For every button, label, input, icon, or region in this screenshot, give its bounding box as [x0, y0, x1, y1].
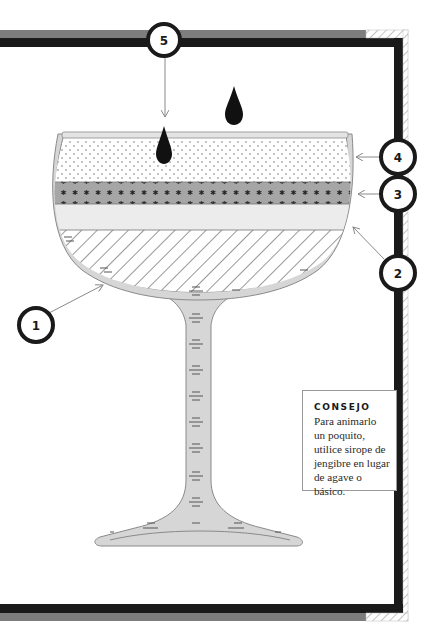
cocktail-diagram: ✱ — [0, 0, 428, 637]
callout-2[interactable]: 2 — [381, 256, 415, 290]
callout-3[interactable]: 3 — [381, 177, 415, 211]
tip-title: CONSEJO — [314, 402, 390, 412]
callout-5[interactable]: 5 — [148, 24, 180, 56]
drop-icon — [225, 86, 243, 125]
callout-1-label: 1 — [32, 319, 40, 333]
callout-1[interactable]: 1 — [19, 308, 53, 342]
arrow-2 — [353, 227, 384, 259]
frame-bottom-black — [0, 604, 403, 613]
glass-stem — [95, 288, 303, 546]
frame-top-hatch — [366, 30, 408, 38]
frame-bottom-gray — [0, 613, 366, 621]
callout-2-label: 2 — [394, 267, 402, 281]
frame-right-black — [394, 38, 403, 613]
callout-3-label: 3 — [394, 188, 402, 202]
callout-4-label: 4 — [394, 151, 402, 165]
glass-rim — [62, 132, 348, 138]
frame-right-hatch — [403, 30, 408, 621]
arrow-1 — [49, 285, 103, 313]
layer-4-dotted — [40, 136, 370, 182]
callout-5-label: 5 — [160, 34, 168, 48]
tip-box: CONSEJO Para animarlo un poquito, utilic… — [302, 390, 397, 491]
frame-bottom-hatch — [366, 613, 408, 621]
frame-top-black — [0, 38, 403, 47]
tip-text: Para animarlo un poquito, utilice sirope… — [314, 414, 390, 498]
layer-2-light — [40, 204, 370, 230]
callout-4[interactable]: 4 — [381, 140, 415, 174]
frame-top-gray — [0, 30, 366, 38]
layer-3-stars — [40, 182, 370, 204]
